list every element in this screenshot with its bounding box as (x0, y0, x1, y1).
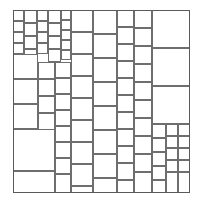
tile-05 (62, 11, 71, 20)
tile-48 (153, 87, 190, 124)
tile-44 (72, 77, 93, 98)
tile-16 (118, 28, 134, 44)
tile-70 (167, 137, 178, 148)
tile-26 (14, 44, 24, 54)
tile-19 (38, 33, 48, 43)
tile-34 (72, 55, 93, 76)
tile-03 (38, 11, 48, 21)
tile-46 (118, 79, 134, 95)
tile-35 (94, 59, 117, 82)
tile-81 (94, 155, 117, 178)
dissection-diagram (0, 0, 203, 203)
tile-29 (135, 47, 152, 64)
tile-50 (56, 95, 71, 110)
tile-32 (49, 50, 61, 62)
tile-37 (39, 63, 55, 79)
tile-66 (94, 131, 117, 154)
tile-75 (135, 155, 152, 172)
tile-15 (49, 24, 61, 36)
tile-07 (94, 11, 117, 34)
tile-38 (56, 63, 71, 78)
tile-62 (153, 125, 166, 138)
tile-10 (153, 11, 190, 48)
tile-02 (25, 11, 37, 23)
tile-76 (153, 153, 166, 166)
tile-78 (179, 149, 190, 160)
tile-73 (72, 143, 93, 164)
tile-36 (14, 55, 38, 79)
tile-49 (39, 97, 55, 113)
tile-87 (56, 175, 71, 193)
tile-71 (179, 137, 190, 148)
tile-42 (39, 80, 55, 96)
tile-12 (38, 22, 48, 32)
tile-92 (153, 181, 166, 193)
tile-91 (135, 173, 152, 193)
tile-06 (72, 11, 93, 32)
tile-33 (62, 51, 71, 60)
tile-11 (14, 22, 24, 32)
tile-52 (118, 96, 134, 112)
tile-40 (135, 65, 152, 82)
tile-63 (167, 125, 178, 136)
tile-56 (56, 111, 71, 126)
tile-77 (167, 149, 178, 160)
tile-14 (25, 24, 37, 36)
tile-30 (153, 49, 190, 86)
tile-79 (56, 159, 71, 174)
tile-01 (14, 11, 24, 21)
tile-43 (56, 79, 71, 94)
tile-47 (135, 83, 152, 100)
tile-39 (118, 62, 134, 78)
tile-90 (118, 181, 134, 193)
tile-25 (62, 41, 71, 50)
tile-82 (118, 164, 134, 180)
tile-94 (179, 173, 190, 193)
tile-09 (135, 11, 152, 28)
tiles-layer (14, 11, 190, 193)
tile-58 (118, 113, 134, 129)
tile-84 (167, 161, 178, 172)
tile-80 (72, 165, 93, 186)
tile-17 (135, 29, 152, 46)
tile-85 (179, 161, 190, 172)
tile-20 (62, 31, 71, 40)
tile-54 (14, 105, 38, 129)
tile-68 (135, 137, 152, 154)
tile-51 (72, 99, 93, 120)
tile-64 (179, 125, 190, 136)
tile-69 (153, 139, 166, 152)
tile-45 (94, 83, 117, 106)
tile-27 (38, 44, 48, 54)
tile-13 (62, 21, 71, 30)
tile-53 (135, 101, 152, 118)
tile-61 (56, 127, 71, 142)
tile-28 (118, 45, 134, 61)
tile-18 (14, 33, 24, 43)
tile-08 (118, 11, 134, 27)
tile-55 (39, 114, 55, 130)
tile-65 (14, 130, 55, 171)
tile-21 (72, 33, 93, 54)
tile-22 (94, 35, 117, 58)
tile-72 (56, 143, 71, 158)
tile-57 (94, 107, 117, 130)
tile-59 (135, 119, 152, 136)
tile-23 (25, 37, 37, 49)
tile-67 (118, 130, 134, 146)
squared-square-figure (0, 0, 203, 203)
tile-88 (72, 187, 93, 193)
tile-24 (49, 37, 61, 49)
tile-41 (14, 80, 38, 104)
tile-86 (14, 172, 55, 193)
tile-93 (167, 173, 178, 193)
tile-89 (94, 179, 117, 193)
tile-83 (153, 167, 166, 180)
tile-74 (118, 147, 134, 163)
tile-60 (72, 121, 93, 142)
tile-04 (49, 11, 61, 23)
